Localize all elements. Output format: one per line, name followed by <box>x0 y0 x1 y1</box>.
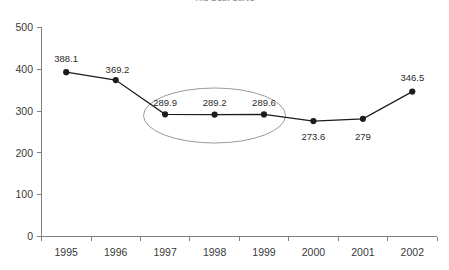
data-point-1998[interactable] <box>212 112 218 118</box>
y-axis-ticks <box>37 28 42 237</box>
x-tick-label-2000: 2000 <box>302 246 326 258</box>
data-value-labels: 388.1 369.2 289.9 289.2 289.6 273.6 279 … <box>54 53 424 142</box>
data-point-1999[interactable] <box>261 111 267 117</box>
y-tick-label-300: 300 <box>15 105 33 117</box>
value-label-2002: 346.5 <box>400 72 424 83</box>
x-tick-label-1998: 1998 <box>203 246 227 258</box>
x-axis-ticks <box>42 237 438 242</box>
y-tick-label-500: 500 <box>15 21 33 33</box>
data-point-2000[interactable] <box>310 118 316 124</box>
x-tick-label-1996: 1996 <box>104 246 128 258</box>
data-point-2001[interactable] <box>360 116 366 122</box>
chart-container: The Debt Curve 0 100 200 300 400 500 <box>0 0 449 270</box>
y-tick-label-0: 0 <box>27 230 33 242</box>
data-point-1995[interactable] <box>63 69 69 75</box>
x-tick-label-1997: 1997 <box>153 246 177 258</box>
value-label-1996: 369.2 <box>106 64 130 75</box>
line-chart-plot: 0 100 200 300 400 500 1995 1996 1997 199… <box>0 0 449 270</box>
data-point-1996[interactable] <box>113 77 119 83</box>
y-axis-tick-labels: 0 100 200 300 400 500 <box>15 21 33 242</box>
x-tick-label-2002: 2002 <box>401 246 425 258</box>
y-tick-label-400: 400 <box>15 63 33 75</box>
value-label-1999: 289.6 <box>252 97 276 108</box>
x-tick-label-1995: 1995 <box>55 246 79 258</box>
x-tick-label-2001: 2001 <box>351 246 375 258</box>
value-label-2000: 273.6 <box>302 131 326 142</box>
x-tick-label-1999: 1999 <box>252 246 276 258</box>
value-label-1995: 388.1 <box>54 53 78 64</box>
y-tick-label-200: 200 <box>15 147 33 159</box>
y-tick-label-100: 100 <box>15 188 33 200</box>
value-label-2001: 279 <box>355 131 371 142</box>
value-label-1997: 289.9 <box>153 97 177 108</box>
value-label-1998: 289.2 <box>203 97 227 108</box>
data-point-2002[interactable] <box>409 89 415 95</box>
x-axis-tick-labels: 1995 1996 1997 1998 1999 2000 2001 2002 <box>55 246 425 258</box>
data-point-1997[interactable] <box>162 111 168 117</box>
debt-series-markers <box>63 69 415 124</box>
